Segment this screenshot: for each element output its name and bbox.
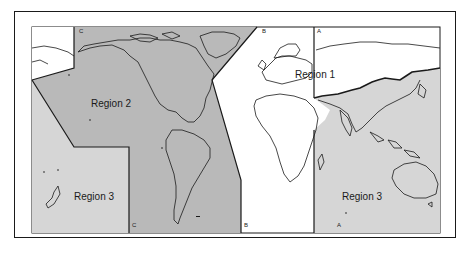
marker-b-top: B: [262, 28, 266, 34]
region-2-label: Region 2: [91, 98, 131, 109]
region-3-west-label: Region 3: [74, 191, 114, 202]
marker-a-top: A: [317, 28, 321, 34]
marker-c-top: C: [79, 28, 83, 34]
marker-c-bottom: C: [132, 222, 136, 228]
marker-a-bottom: A: [337, 222, 341, 228]
region-3-east-label: Region 3: [342, 191, 382, 202]
world-map: [0, 0, 468, 253]
region-1-label: Region 1: [295, 69, 335, 80]
marker-b-bottom: B: [244, 222, 248, 228]
